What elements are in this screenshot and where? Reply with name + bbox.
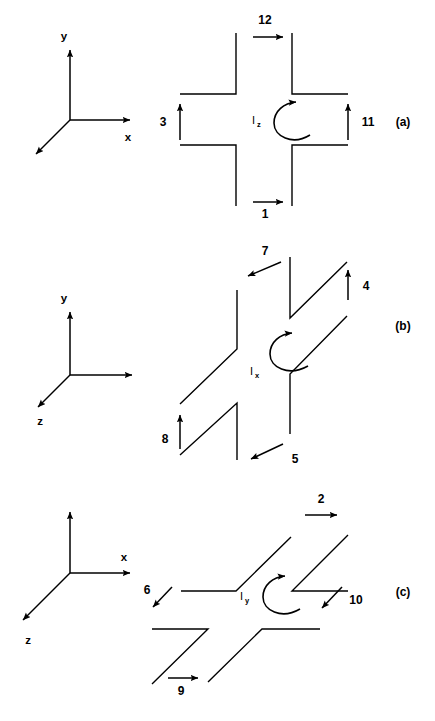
panel-b-panel-label: (b)	[395, 319, 410, 333]
figure-canvas: y x I z 12 3 11 1 (a)	[0, 0, 435, 721]
panel-b-label-top: 7	[262, 244, 269, 258]
panel-b-current-symbol: I	[250, 365, 253, 377]
panel-a-label-bottom: 1	[262, 207, 269, 221]
panel-c-panel-label: (c)	[396, 585, 411, 599]
panel-a-current-subscript: z	[257, 120, 261, 129]
panel-c-label-bottom: 9	[178, 684, 185, 698]
panel-c-label-left: 6	[144, 583, 151, 597]
panel-b-axis-y-label: y	[61, 292, 68, 304]
panel-a-axis-y-label: y	[61, 30, 68, 42]
panel-c-axis-z-label: z	[25, 634, 31, 646]
panel-a-current-symbol: I	[252, 114, 255, 126]
panel-b-label-left: 8	[162, 432, 169, 446]
panel-a-label-left: 3	[160, 115, 167, 129]
panel-a-label-top: 12	[258, 13, 272, 27]
panel-c-label-right: 10	[349, 593, 363, 607]
page-background	[0, 0, 435, 721]
panel-c-current-symbol: I	[240, 590, 243, 602]
panel-b-axis-z-label: z	[37, 415, 43, 427]
panel-a-panel-label: (a)	[396, 115, 411, 129]
panel-a-label-right: 11	[362, 115, 375, 129]
diagram-svg: y x I z 12 3 11 1 (a)	[0, 0, 435, 721]
panel-b-label-right: 4	[363, 279, 370, 293]
panel-c-axis-x-label: x	[121, 551, 128, 563]
panel-c-label-top: 2	[318, 492, 325, 506]
panel-b-label-bottom: 5	[292, 452, 299, 466]
panel-a-axis-x-label: x	[125, 131, 132, 143]
